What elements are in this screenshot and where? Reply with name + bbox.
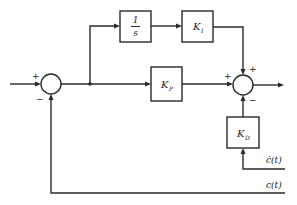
integrator-numerator: 1 [133,15,139,25]
kd-subscript: D [244,134,250,141]
ki-label: K [192,21,201,32]
ki-to-junction-line [213,27,243,73]
right-summing-junction [233,75,253,95]
ki-input-arrow-icon [176,24,182,29]
integrator-branch-line [90,26,118,84]
input-arrow-icon [35,82,41,87]
right-junction-minus-sign-kd: − [249,95,257,105]
output-arrow-icon [278,83,284,88]
kd-input-arrow-icon [241,148,246,154]
kp-junction-arrow-icon [227,82,233,87]
c-label: c(t) [266,180,282,190]
c-dot-label: ċ(t) [266,155,282,165]
kp-input-arrow-icon [145,82,151,87]
kd-label: K [236,128,245,139]
integrator-input-arrow-icon [114,24,120,29]
feedback-arrow-icon [49,94,54,100]
left-junction-minus-sign: − [36,94,44,104]
ki-junction-arrow-icon [241,69,246,75]
pid-block-diagram: + − 1 s K I K P + + − K D ċ(t) c(t) [0,0,297,205]
kp-label: K [160,79,169,90]
kd-junction-arrow-icon [241,95,246,101]
left-junction-plus-sign: + [32,71,40,81]
right-junction-plus-sign-ki: + [249,64,257,74]
right-junction-plus-sign-kp: + [224,71,232,81]
integrator-denominator: s [133,28,138,38]
left-summing-junction [41,74,61,94]
